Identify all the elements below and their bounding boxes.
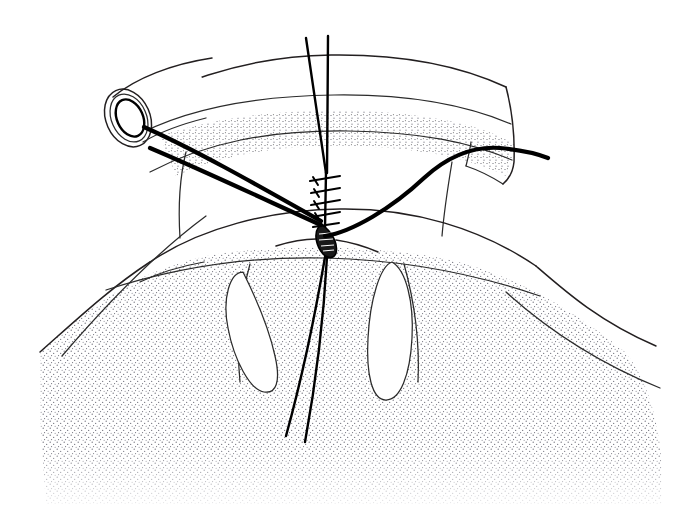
upper-thread-right (327, 36, 328, 173)
organ-body-left-fade (0, 230, 260, 516)
illustration-canvas (0, 0, 699, 516)
anatomical-line-drawing (0, 0, 699, 516)
suture-spine (325, 172, 326, 228)
